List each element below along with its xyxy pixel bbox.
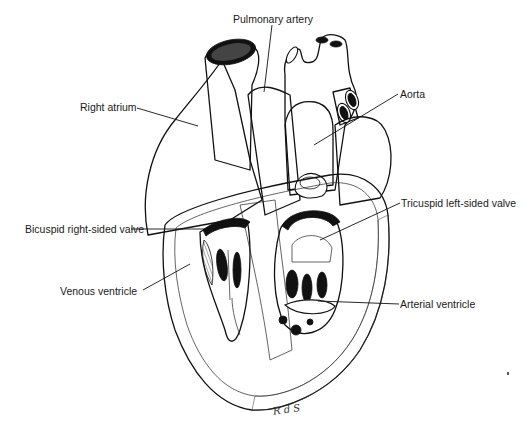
- heart-illustration: [0, 0, 525, 429]
- label-pulmonary-artery: Pulmonary artery: [233, 13, 313, 25]
- leader-venous: [143, 264, 190, 290]
- left-atrium-shape: [335, 117, 391, 205]
- right-atrium-shape: [145, 60, 262, 235]
- label-right-atrium: Right atrium: [80, 101, 137, 113]
- venous-ventricle-cavity: [200, 221, 250, 341]
- print-speck: [507, 372, 509, 375]
- venous-valve-flap: [203, 240, 213, 285]
- label-aorta: Aorta: [400, 88, 425, 100]
- label-tricuspid-valve: Tricuspid left-sided valve: [401, 197, 516, 209]
- label-arterial-ventricle: Arterial ventricle: [400, 298, 475, 310]
- pulmonary-artery-shape: [248, 87, 300, 215]
- arterial-ventricle-cavity: [275, 214, 343, 333]
- label-venous-ventricle: Venous ventricle: [60, 285, 137, 297]
- leader-right-atrium: [137, 108, 198, 126]
- label-bicuspid-valve: Bicuspid right-sided valve: [25, 223, 144, 235]
- leader-pulmonary-artery: [264, 25, 272, 92]
